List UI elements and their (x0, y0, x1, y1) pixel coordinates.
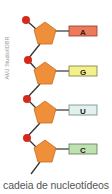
base-label: G (80, 68, 86, 77)
sugar-pentagon-icon (34, 101, 56, 123)
sugar-pentagon-icon (34, 22, 56, 44)
sugar-pentagon-icon (34, 140, 56, 162)
nucleotide-a: A (22, 16, 97, 44)
glycosidic-bonds (55, 31, 69, 149)
sugar-pentagon-icon (34, 62, 56, 84)
nucleotide-u: U (23, 95, 97, 123)
phosphate-icon (24, 56, 32, 64)
base-label: A (80, 28, 86, 37)
nucleotide-chain-diagram: A G U C AMJ Studio/IDBR (0, 0, 112, 194)
diagram-caption: cadeia de nucleotídeos (0, 179, 112, 191)
phosphate-icon (23, 134, 31, 142)
nucleotide-g: G (24, 56, 97, 84)
image-credit: AMJ Studio/IDBR (4, 37, 10, 80)
base-label: U (80, 107, 86, 116)
phosphate-icon (23, 95, 31, 103)
base-label: C (80, 146, 86, 155)
nucleotide-c: C (23, 134, 97, 162)
phosphate-icon (22, 16, 30, 24)
